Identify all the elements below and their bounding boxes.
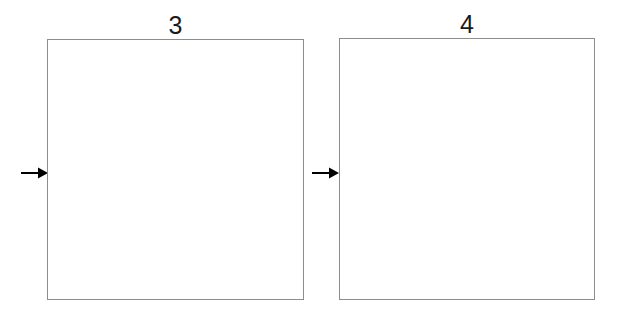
panel-3-content <box>48 40 303 299</box>
panel-4-content <box>340 39 594 299</box>
arrow-right-icon-panel-4 <box>312 166 340 180</box>
panel-label-3: 3 <box>47 13 304 38</box>
panel-group: 3 4 <box>0 0 618 314</box>
panel-4[interactable] <box>339 38 595 300</box>
panel-3[interactable] <box>47 39 304 300</box>
arrow-right-icon-panel-3 <box>21 166 49 180</box>
panel-label-4: 4 <box>339 12 595 37</box>
figure-canvas: 3 4 <box>0 0 618 314</box>
